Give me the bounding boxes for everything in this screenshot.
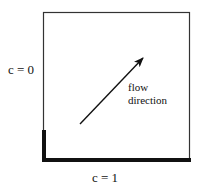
thick-left-boundary — [42, 130, 46, 162]
diagram-canvas — [0, 0, 199, 186]
flow-label-line1: flow — [128, 81, 167, 94]
bottom-boundary-label: c = 1 — [92, 171, 118, 184]
flow-label-line2: direction — [128, 94, 167, 107]
diagram: c = 0 c = 1 flow direction — [0, 0, 199, 186]
thick-bottom-boundary — [42, 158, 191, 162]
left-boundary-label: c = 0 — [8, 63, 34, 76]
flow-direction-label: flow direction — [128, 81, 167, 107]
